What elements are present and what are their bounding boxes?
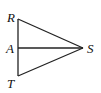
label-A: A [5,41,14,56]
triangle-diagram: R A T S [0,0,101,93]
label-S: S [87,41,94,56]
label-R: R [6,10,15,25]
segment-RS [18,19,83,48]
segment-TS [18,48,83,76]
label-T: T [7,76,15,91]
